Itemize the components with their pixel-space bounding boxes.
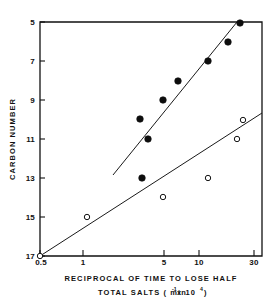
x-axis-title-line2-part2: x 10 bbox=[177, 288, 196, 297]
data-point-open bbox=[234, 136, 239, 141]
x-axis-ticks bbox=[40, 250, 254, 256]
x-axis-title-line1: RECIPROCAL OF TIME TO LOSE HALF bbox=[65, 274, 238, 283]
y-tick-label-11: 11 bbox=[26, 135, 35, 144]
fit-line-open-circles bbox=[40, 113, 262, 256]
y-tick-label-9: 9 bbox=[30, 96, 35, 105]
x-tick-label-1: 1 bbox=[81, 258, 86, 267]
scatter-chart: 5 7 9 11 13 15 17 0.5 1 5 10 30 CARBON N… bbox=[0, 0, 280, 303]
figure-container: 5 7 9 11 13 15 17 0.5 1 5 10 30 CARBON N… bbox=[0, 0, 280, 303]
data-point-filled bbox=[175, 78, 182, 85]
data-point-filled bbox=[160, 97, 167, 104]
data-point-filled bbox=[237, 20, 244, 27]
data-point-open bbox=[240, 117, 245, 122]
x-tick-label-10: 10 bbox=[194, 258, 204, 267]
x-tick-label-5: 5 bbox=[162, 258, 167, 267]
data-point-open bbox=[84, 214, 89, 219]
y-axis-ticks bbox=[40, 22, 45, 256]
data-point-open bbox=[205, 175, 210, 180]
data-point-filled bbox=[137, 116, 144, 123]
data-point-filled bbox=[205, 58, 212, 65]
y-axis-tick-labels: 5 7 9 11 13 15 17 bbox=[26, 18, 36, 261]
fit-line-filled-circles bbox=[113, 22, 237, 175]
data-point-filled bbox=[225, 39, 232, 46]
y-axis-title: CARBON NUMBER bbox=[8, 98, 17, 180]
y-tick-label-17: 17 bbox=[26, 252, 36, 261]
data-point-open bbox=[37, 253, 42, 258]
x-axis-title-line2-part3: ) bbox=[204, 288, 208, 297]
data-point-open bbox=[160, 194, 165, 199]
y-tick-label-15: 15 bbox=[26, 213, 36, 222]
x-tick-label-30: 30 bbox=[249, 258, 259, 267]
y-tick-label-5: 5 bbox=[30, 18, 35, 27]
x-axis-title-line2: TOTAL SALTS ( min -1 x 10 4 ) bbox=[98, 286, 208, 297]
x-axis-title-exponent-4: 4 bbox=[200, 286, 203, 292]
data-point-filled bbox=[139, 175, 146, 182]
x-axis-tick-labels: 0.5 1 5 10 30 bbox=[35, 258, 259, 267]
x-tick-label-0.5: 0.5 bbox=[35, 258, 47, 267]
y-tick-label-7: 7 bbox=[30, 57, 35, 66]
y-tick-label-13: 13 bbox=[26, 174, 36, 183]
data-point-filled bbox=[145, 136, 152, 143]
series-filled-circles bbox=[137, 20, 244, 182]
